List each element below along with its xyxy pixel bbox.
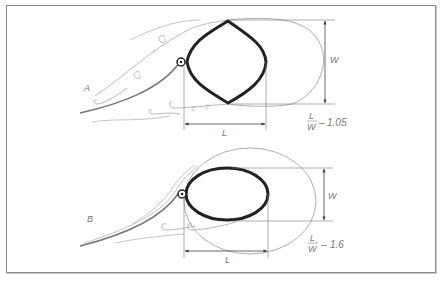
panel-b-bubble — [186, 168, 268, 220]
panel-a-ratio-eq: – — [318, 117, 325, 128]
panel-a-bubble — [187, 21, 266, 103]
panel-b-width-label: W — [328, 191, 338, 201]
panel-a-ratio-denominator: W — [307, 122, 317, 132]
panel-b-outer-envelope — [184, 148, 316, 254]
panel-b-ratio-eq: – — [320, 239, 327, 250]
panel-b-length-label: L — [225, 255, 230, 265]
panel-a-length-label: L — [222, 128, 227, 138]
panel-b-ratio-value: 1.6 — [330, 239, 344, 250]
panel-a-width-label: W — [330, 55, 340, 65]
panel-a-label: A — [83, 83, 90, 93]
diagram-canvas: A W L L W – 1.05 B W L L W – 1.6 — [0, 0, 443, 281]
panel-a-ratio-numerator: L — [309, 111, 314, 121]
panel-b-ratio-numerator: L — [310, 233, 315, 243]
panel-b-support-line — [80, 194, 178, 246]
panel-b — [80, 148, 333, 258]
panel-b-ratio-denominator: W — [308, 244, 318, 254]
diagram-figure: A W L L W – 1.05 B W L L W – 1.6 — [0, 0, 443, 281]
panel-b-label: B — [87, 214, 93, 224]
panel-a — [80, 18, 335, 130]
panel-a-ratio-value: 1.05 — [327, 117, 347, 128]
